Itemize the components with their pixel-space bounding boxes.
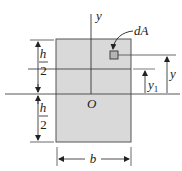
h-top-numerator: h [40, 46, 47, 61]
cross-section-diagram: h 2 h 2 y dA O y y1 b [0, 0, 182, 171]
dA-label: dA [134, 23, 149, 38]
cross-section-rectangle [56, 39, 131, 142]
y-axis-label: y [94, 8, 102, 23]
h-bottom-denominator: 2 [40, 117, 47, 132]
origin-label: O [87, 96, 97, 111]
h-bottom-numerator: h [40, 100, 47, 115]
b-label: b [90, 151, 97, 166]
y1-dim-label: y1 [146, 77, 158, 94]
y-dim-label: y [168, 66, 176, 81]
h-top-denominator: 2 [40, 63, 47, 78]
dA-element [110, 51, 118, 59]
